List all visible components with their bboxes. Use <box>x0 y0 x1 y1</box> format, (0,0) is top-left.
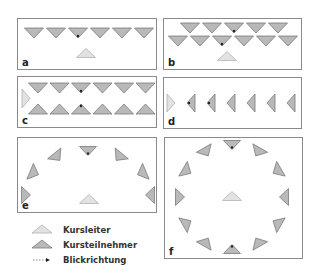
panel-a-gaze-marker <box>77 35 79 37</box>
panel-c-participant <box>136 83 155 93</box>
panel-a-participant <box>47 28 66 38</box>
panel-f-participant <box>280 189 289 206</box>
panel-c-participant <box>115 83 134 93</box>
panel-f-participant <box>253 238 268 250</box>
panel-c-gaze-marker <box>80 90 82 92</box>
panel-e-gaze-marker <box>87 152 89 154</box>
panel-d-gaze-marker <box>188 102 190 104</box>
panel-c-participant <box>50 83 69 93</box>
panel-b-gaze-marker <box>221 43 223 45</box>
panel-c-participant <box>136 104 155 114</box>
panel-b-participant <box>235 36 254 46</box>
legend-gaze-arrow-icon <box>46 258 50 262</box>
panel-f-participant <box>196 144 211 156</box>
panel-f-participant <box>179 218 191 233</box>
legend-leader-triangle-icon <box>32 225 52 233</box>
panel-b-gaze-marker <box>233 30 235 32</box>
panel-e-participant <box>27 163 39 179</box>
panel-c-label: c <box>22 115 28 126</box>
panel-a-label: a <box>22 57 29 68</box>
panel-f-participant <box>179 161 191 176</box>
panel-b-participant <box>169 36 188 46</box>
panel-a-box <box>18 19 157 70</box>
legend-label-leader: Kursleiter <box>63 225 111 235</box>
panel-a-participant <box>25 28 44 38</box>
panel-f-leader <box>223 192 242 201</box>
panel-e-leader <box>80 195 99 204</box>
panel-b-label: b <box>168 57 175 68</box>
panel-a-participant <box>91 28 110 38</box>
legend-label-gaze: Blickrichtung <box>63 255 126 265</box>
panel-f-gaze-marker <box>231 146 233 148</box>
legend-label-participant: Kursteilnehmer <box>63 240 138 250</box>
panel-c-leader <box>22 89 30 108</box>
panel-e-participant <box>146 187 155 204</box>
panel-c-participant <box>115 104 134 114</box>
panel-d-participant <box>287 94 295 112</box>
panel-b-leader <box>218 52 237 61</box>
panel-c-gaze-marker <box>80 105 82 107</box>
panel-e-participant <box>115 148 128 160</box>
panel-c-participant <box>29 83 48 93</box>
panel-a-participant <box>135 28 154 38</box>
panel-c-participant <box>29 104 48 114</box>
panel-b-participant <box>269 23 288 33</box>
seating-shapes <box>22 23 298 254</box>
panel-a-participant <box>113 28 132 38</box>
panel-d-participant <box>267 94 275 112</box>
panel-f-label: f <box>169 246 174 257</box>
panel-b-participant <box>203 23 222 33</box>
panel-c-participant <box>93 83 112 93</box>
panel-d-participant <box>227 94 235 112</box>
panel-c-participant <box>93 104 112 114</box>
panel-b-participant <box>257 36 276 46</box>
panel-d-label: d <box>168 116 175 127</box>
legend: Kursleiter Kursteilnehmer Blickrichtung <box>32 225 138 265</box>
seating-arrangements-diagram: a b c d e f Kursleiter Kursteilnehmer Bl… <box>0 0 314 275</box>
panel-d-gaze-marker <box>208 102 210 104</box>
panel-c-participant <box>50 104 69 114</box>
panel-b-participant <box>181 23 200 33</box>
panel-b-participant <box>279 36 298 46</box>
panel-f-participant <box>196 238 211 250</box>
panel-f-gaze-marker <box>231 245 233 247</box>
panel-b-participant <box>247 23 266 33</box>
panel-a-leader <box>77 49 96 58</box>
legend-participant-triangle-icon <box>32 240 52 248</box>
panel-f-participant <box>273 161 285 176</box>
panel-d-leader <box>167 94 175 112</box>
panel-e-participant <box>138 163 150 179</box>
panel-f-participant <box>253 144 268 156</box>
panel-b-participant <box>191 36 210 46</box>
panel-e-participant <box>48 148 61 160</box>
panel-f-participant <box>176 189 185 206</box>
panel-d-participant <box>247 94 255 112</box>
panel-f-participant <box>273 218 285 233</box>
